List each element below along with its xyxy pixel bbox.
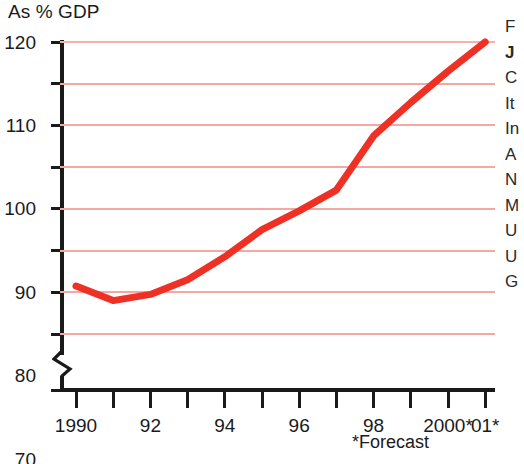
- y-tick-label-110: 110: [0, 114, 36, 136]
- x-tick-01*: [484, 392, 487, 408]
- y-tick-label-100: 100: [0, 198, 36, 220]
- x-tick-1995: [261, 392, 264, 408]
- x-tick-1993: [186, 392, 189, 408]
- y-tick-100: 100: [51, 124, 60, 127]
- x-axis-label-94: 94: [214, 415, 235, 437]
- y-tick-60: 60: [51, 291, 60, 294]
- x-tick-1997: [335, 392, 338, 408]
- y-tick-label-80: 80: [0, 365, 36, 387]
- x-axis-label-01star: 01*: [471, 415, 500, 437]
- side-list-item-2: C: [505, 65, 524, 91]
- x-tick-1998: [372, 392, 375, 408]
- x-axis-label-1990: 1990: [55, 415, 97, 437]
- x-tick-1994: [223, 392, 226, 408]
- y-tick-label-70: 70: [0, 448, 36, 464]
- side-list-item-10: G: [505, 269, 524, 295]
- side-list-item-9: U: [505, 244, 524, 270]
- side-list-item-3: It: [505, 91, 524, 117]
- x-tick-1990: [75, 392, 78, 408]
- y-tick-70: 70: [51, 249, 60, 252]
- chart-page: As % GDP 05060708090100110120 1990929496…: [0, 0, 524, 464]
- x-tick-2000*: [447, 392, 450, 408]
- data-line-series: [60, 40, 495, 392]
- x-tick-1999: [409, 392, 412, 408]
- y-tick-label-120: 120: [0, 31, 36, 53]
- side-list-item-6: N: [505, 167, 524, 193]
- x-axis-label-2000star: 2000*: [423, 415, 473, 437]
- side-list-item-5: A: [505, 142, 524, 168]
- side-list-item-0: F: [505, 14, 524, 40]
- y-tick-0: 0: [51, 389, 60, 392]
- x-axis-label-92: 92: [140, 415, 161, 437]
- y-tick-90: 90: [51, 166, 60, 169]
- y-tick-80: 80: [51, 207, 60, 210]
- x-axis-label-96: 96: [289, 415, 310, 437]
- y-tick-label-90: 90: [0, 281, 36, 303]
- y-tick-50: 50: [51, 333, 60, 336]
- side-list-item-7: M: [505, 193, 524, 219]
- x-tick-1992: [149, 392, 152, 408]
- y-tick-110: 110: [51, 82, 60, 85]
- side-list-item-4: In: [505, 116, 524, 142]
- plot-area: 05060708090100110120 1990929496982000*01…: [60, 40, 495, 392]
- y-axis-title: As % GDP: [8, 1, 100, 23]
- x-tick-1991: [112, 392, 115, 408]
- y-tick-120: 120: [51, 41, 60, 44]
- side-country-list: FJCItInANMUUG: [505, 14, 524, 295]
- forecast-footnote: *Forecast: [352, 432, 429, 453]
- side-list-item-8: U: [505, 218, 524, 244]
- side-list-item-1: J: [505, 40, 524, 66]
- x-tick-1996: [298, 392, 301, 408]
